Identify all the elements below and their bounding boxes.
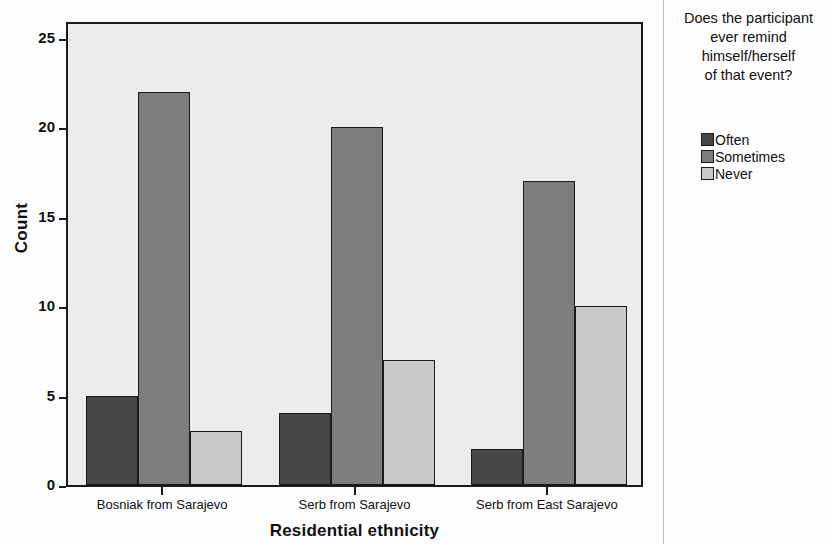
bars-layer — [68, 24, 641, 485]
bar — [190, 431, 242, 485]
bar — [575, 306, 627, 485]
bar — [523, 181, 575, 485]
bar — [138, 92, 190, 485]
y-tick-label: 25 — [38, 29, 55, 46]
x-tick-mark — [161, 487, 163, 495]
x-tick-mark — [354, 487, 356, 495]
legend-swatch-icon — [701, 133, 714, 146]
legend: Does the participantever remindhimself/h… — [663, 0, 832, 544]
legend-label: Often — [715, 132, 749, 148]
y-tick-mark — [59, 397, 66, 399]
y-tick-mark — [59, 486, 66, 488]
y-tick-mark — [59, 128, 66, 130]
y-tick-mark — [59, 218, 66, 220]
x-tick-label: Serb from East Sarajevo — [476, 497, 618, 512]
legend-label: Sometimes — [715, 149, 785, 165]
bar — [471, 449, 523, 485]
y-tick-mark — [59, 39, 66, 41]
x-tick-label: Serb from Sarajevo — [299, 497, 411, 512]
bar-chart-figure: Count 0510152025 Bosniak from SarajevoSe… — [0, 0, 832, 544]
y-tick-label: 20 — [38, 118, 55, 135]
y-tick-label: 0 — [47, 476, 55, 493]
legend-title-line: Does the participant — [664, 9, 832, 28]
bar — [279, 413, 331, 485]
y-axis-ticks: 0510152025 — [0, 22, 66, 487]
x-tick-label: Bosniak from Sarajevo — [97, 497, 228, 512]
bar — [331, 127, 383, 485]
legend-swatch-icon — [701, 167, 714, 180]
legend-label: Never — [715, 166, 752, 182]
legend-item-sometimes[interactable]: Sometimes — [701, 148, 831, 165]
legend-items: OftenSometimesNever — [701, 131, 831, 182]
y-tick-label: 5 — [47, 387, 55, 404]
legend-title-line: himself/herself — [664, 47, 832, 66]
y-tick-label: 10 — [38, 297, 55, 314]
bar — [86, 396, 138, 485]
x-axis-label: Residential ethnicity — [66, 521, 643, 541]
legend-title-line: ever remind — [664, 28, 832, 47]
x-tick-mark — [546, 487, 548, 495]
legend-item-never[interactable]: Never — [701, 165, 831, 182]
y-tick-label: 15 — [38, 208, 55, 225]
legend-title-line: of that event? — [664, 66, 832, 85]
legend-swatch-icon — [701, 150, 714, 163]
y-tick-mark — [59, 307, 66, 309]
legend-item-often[interactable]: Often — [701, 131, 831, 148]
plot-area — [66, 22, 643, 487]
bar — [383, 360, 435, 485]
legend-title: Does the participantever remindhimself/h… — [664, 9, 832, 85]
